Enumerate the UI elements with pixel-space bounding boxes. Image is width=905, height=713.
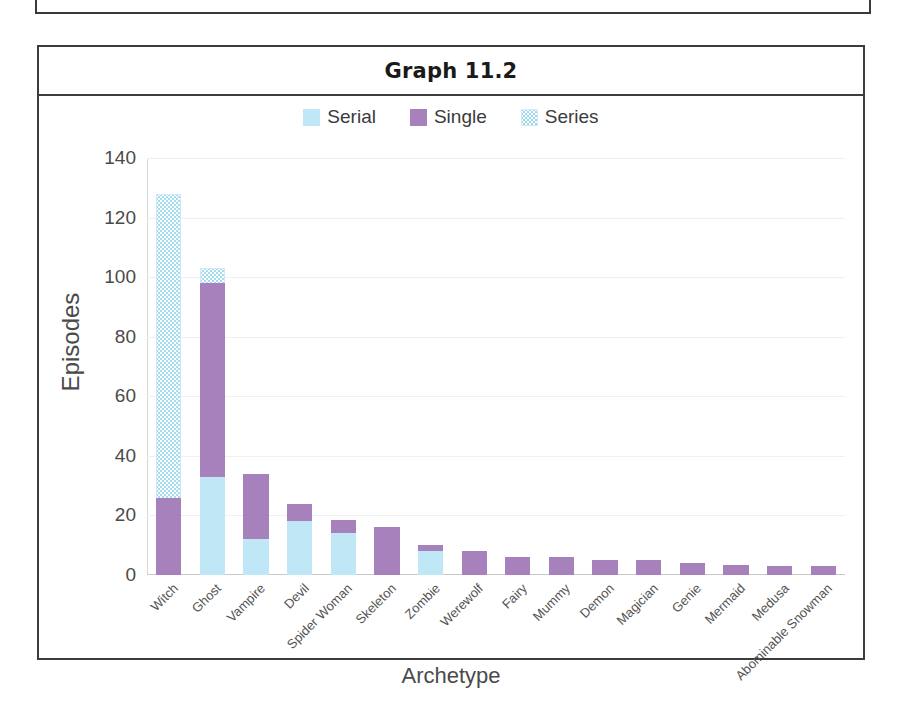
plot-region: SerialSingleSeries Episodes Archetype 02…	[39, 96, 863, 658]
bar-segment-single[interactable]	[156, 498, 181, 575]
x-axis-tick-label: Medusa	[747, 582, 790, 625]
bar-column[interactable]: Medusa	[767, 566, 792, 575]
x-axis-tick-label: Witch	[146, 582, 180, 616]
bar-column[interactable]: Skeleton	[374, 527, 399, 575]
bar-segment-serial[interactable]	[331, 533, 356, 575]
gridline	[147, 456, 845, 457]
x-axis-tick-text: Skeleton	[353, 581, 399, 627]
x-axis-tick-text: Magician	[613, 581, 660, 628]
bar-segment-series[interactable]	[156, 194, 181, 498]
x-axis-tick-text: Fairy	[499, 581, 530, 612]
x-axis-tick-text: Witch	[147, 581, 181, 615]
chart-figure-frame: Graph 11.2 SerialSingleSeries Episodes A…	[37, 45, 865, 660]
legend-label: Series	[545, 106, 599, 128]
x-axis-tick-text: Vampire	[224, 581, 268, 625]
y-axis-tick-label: 0	[125, 564, 136, 586]
bar-column[interactable]: Abominable Snowman	[811, 566, 836, 575]
x-axis-tick-text: Zombie	[401, 581, 442, 622]
legend-item-serial[interactable]: Serial	[303, 106, 376, 128]
bar-column[interactable]: Zombie	[418, 545, 443, 575]
bar-segment-serial[interactable]	[418, 551, 443, 575]
bar-segment-single[interactable]	[549, 557, 574, 575]
legend-label: Single	[434, 106, 487, 128]
x-axis-tick-label: Genie	[668, 582, 703, 617]
bar-column[interactable]: Fairy	[505, 557, 530, 575]
y-axis-title: Episodes	[57, 262, 85, 422]
y-axis-tick-label: 120	[104, 206, 136, 228]
gridline	[147, 218, 845, 219]
gridline	[147, 396, 845, 397]
legend-item-single[interactable]: Single	[410, 106, 487, 128]
gridline	[147, 158, 845, 159]
bar-segment-single[interactable]	[505, 557, 530, 575]
bar-segment-single[interactable]	[374, 527, 399, 575]
y-axis-tick-label: 60	[115, 385, 136, 407]
x-axis-tick-text: Demon	[577, 581, 617, 621]
bar-segment-single[interactable]	[287, 504, 312, 522]
bar-segment-serial[interactable]	[243, 539, 268, 575]
x-axis-tick-label: Mermaid	[700, 582, 746, 628]
bar-column[interactable]: Werewolf	[462, 551, 487, 575]
x-axis-tick-label: Demon	[575, 582, 615, 622]
bar-segment-series[interactable]	[200, 268, 225, 283]
chart-title-bar: Graph 11.2	[39, 47, 863, 96]
bar-segment-single[interactable]	[767, 566, 792, 575]
bar-segment-single[interactable]	[680, 563, 705, 575]
x-axis-tick-label: Zombie	[400, 582, 441, 623]
x-axis-tick-text: Werewolf	[437, 581, 486, 630]
y-axis-tick-label: 140	[104, 147, 136, 169]
x-axis-tick-text: Medusa	[748, 581, 791, 624]
legend-label: Serial	[327, 106, 376, 128]
bar-segment-single[interactable]	[243, 474, 268, 540]
legend-swatch-serial-icon	[303, 109, 320, 126]
bar-segment-single[interactable]	[462, 551, 487, 575]
plot-area: 020406080100120140WitchGhostVampireDevil…	[147, 158, 845, 575]
y-axis-tick-label: 20	[115, 504, 136, 526]
bar-column[interactable]: Spider Woman	[331, 520, 356, 575]
x-axis-tick-text: Mummy	[530, 581, 573, 624]
y-axis-tick-label: 80	[115, 325, 136, 347]
bar-segment-serial[interactable]	[287, 521, 312, 575]
bar-column[interactable]: Mummy	[549, 557, 574, 575]
x-axis-tick-label: Devil	[279, 582, 310, 613]
bar-segment-single[interactable]	[811, 566, 836, 575]
bar-column[interactable]: Witch	[156, 194, 181, 575]
chart-legend: SerialSingleSeries	[39, 106, 863, 128]
legend-swatch-single-icon	[410, 109, 427, 126]
legend-swatch-series-icon	[521, 109, 538, 126]
x-axis-tick-label: Fairy	[497, 582, 528, 613]
bar-column[interactable]: Ghost	[200, 268, 225, 575]
bar-column[interactable]: Genie	[680, 563, 705, 575]
x-axis-tick-label: Mummy	[529, 582, 572, 625]
bar-segment-single[interactable]	[331, 520, 356, 533]
x-axis-tick-label: Werewolf	[436, 582, 485, 631]
bar-segment-single[interactable]	[723, 565, 748, 575]
x-axis-tick-label: Magician	[612, 582, 659, 629]
y-axis-tick-label: 100	[104, 266, 136, 288]
x-axis-tick-label: Skeleton	[351, 582, 397, 628]
y-axis-tick-label: 40	[115, 444, 136, 466]
x-axis-tick-text: Mermaid	[702, 581, 748, 627]
gridline	[147, 337, 845, 338]
x-axis-tick-text: Ghost	[189, 581, 224, 616]
bar-segment-single[interactable]	[636, 560, 661, 575]
x-axis-tick-label: Vampire	[222, 582, 266, 626]
bar-column[interactable]: Mermaid	[723, 565, 748, 575]
bar-segment-single[interactable]	[200, 283, 225, 477]
bar-column[interactable]: Magician	[636, 560, 661, 575]
bar-segment-serial[interactable]	[200, 477, 225, 575]
x-axis-tick-text: Devil	[281, 581, 312, 612]
bar-column[interactable]: Vampire	[243, 474, 268, 575]
page-title: Graph 11.2	[385, 59, 518, 83]
bar-column[interactable]: Demon	[592, 560, 617, 575]
x-axis-tick-label: Ghost	[188, 582, 223, 617]
bar-column[interactable]: Devil	[287, 504, 312, 575]
y-axis-line	[147, 158, 148, 575]
legend-item-series[interactable]: Series	[521, 106, 599, 128]
x-axis-tick-text: Genie	[669, 581, 704, 616]
bar-segment-single[interactable]	[592, 560, 617, 575]
gridline	[147, 277, 845, 278]
page-scan-artifact-box	[35, 0, 871, 14]
